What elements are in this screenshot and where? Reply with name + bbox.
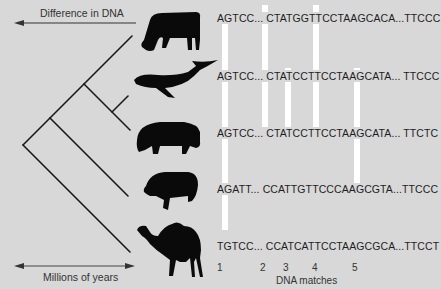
dna-matches-label: DNA matches xyxy=(276,275,337,286)
sequence-hippo: AGTCC... CTATCCTTCCTAAGCATA... TTCTC xyxy=(216,127,439,139)
match-number-2: 2 xyxy=(260,262,266,273)
whale-icon xyxy=(134,60,218,98)
sequence-cow: AGTCC... CTATGGTTCCTAAGCACA...TTCCC xyxy=(216,12,441,24)
camel-icon xyxy=(137,222,203,277)
match-number-1: 1 xyxy=(217,262,223,273)
millions-of-years-label: Millions of years xyxy=(43,271,118,283)
match-number-5: 5 xyxy=(352,262,358,273)
match-number-3: 3 xyxy=(283,262,289,273)
hippo-icon xyxy=(137,122,200,154)
sequence-whale: AGTCC... CTATCCTTCCTAAGCATA... TTCCC xyxy=(216,70,440,82)
sequence-pig: AGATT... CCATTGTTCCCAAGCGTA...TTCCC xyxy=(216,183,439,195)
pig-icon xyxy=(144,172,198,210)
cow-icon xyxy=(141,12,200,51)
difference-in-dna-label: Difference in DNA xyxy=(40,7,124,19)
sequence-camel: TGTCC... CCATCATTCCTAAGCGCA...TTCCT xyxy=(216,240,440,252)
match-number-4: 4 xyxy=(312,262,318,273)
